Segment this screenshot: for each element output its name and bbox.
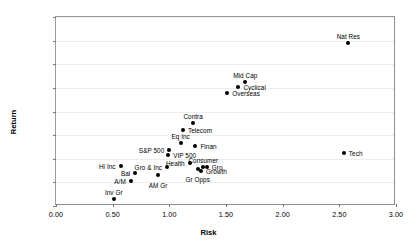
y-tick-mark xyxy=(53,159,56,160)
data-point xyxy=(193,144,197,148)
x-tick-label: 0.50 xyxy=(105,210,119,219)
data-point-label: Overseas xyxy=(232,90,260,97)
data-point-label: Eq Inc xyxy=(171,133,189,140)
data-point-label: Nat Res xyxy=(337,33,360,40)
data-point-label: Consumer xyxy=(188,157,218,164)
x-tick-mark xyxy=(226,204,227,207)
x-tick-label: 1.50 xyxy=(219,210,233,219)
data-point xyxy=(346,41,350,45)
plot-area: 0.005.0010.0015.0020.0025.0030.0035.0040… xyxy=(55,16,395,205)
gridline xyxy=(56,64,394,65)
data-point-label: Bal xyxy=(121,170,130,177)
scatter-chart: Return Risk 0.005.0010.0015.0020.0025.00… xyxy=(0,0,417,243)
x-tick-label: 0.00 xyxy=(49,210,63,219)
data-point xyxy=(199,169,203,173)
x-tick-mark xyxy=(56,204,57,207)
x-tick-mark xyxy=(113,204,114,207)
x-axis-title: Risk xyxy=(0,228,417,237)
gridline xyxy=(56,182,394,183)
gridline xyxy=(56,88,394,89)
y-tick-mark xyxy=(53,64,56,65)
data-point-label: AM Gr xyxy=(149,182,168,189)
x-tick-label: 2.50 xyxy=(332,210,346,219)
data-point xyxy=(165,165,169,169)
y-tick-mark xyxy=(53,17,56,18)
x-tick-mark xyxy=(283,204,284,207)
data-point-label: A/M xyxy=(114,177,126,184)
data-point xyxy=(166,153,170,157)
gridline xyxy=(56,41,394,42)
y-tick-mark xyxy=(53,112,56,113)
data-point xyxy=(119,164,123,168)
data-point xyxy=(179,141,183,145)
data-point-label: Tech xyxy=(349,149,363,156)
data-point-label: Gr Opps xyxy=(185,176,210,183)
y-tick-mark xyxy=(53,41,56,42)
y-tick-mark xyxy=(53,88,56,89)
data-point-label: Inv Gr xyxy=(105,189,123,196)
x-tick-label: 3.00 xyxy=(389,210,403,219)
gridline xyxy=(56,112,394,113)
x-tick-mark xyxy=(396,204,397,207)
y-axis-title: Return xyxy=(9,109,18,133)
y-tick-mark xyxy=(53,182,56,183)
data-point-label: Growth xyxy=(206,167,227,174)
gridline xyxy=(56,17,394,18)
y-tick-mark xyxy=(53,135,56,136)
data-point xyxy=(129,179,133,183)
x-tick-label: 1.00 xyxy=(162,210,176,219)
data-point xyxy=(112,197,116,201)
data-point xyxy=(342,151,346,155)
data-point xyxy=(133,171,137,175)
data-point-label: Hi Inc xyxy=(99,163,116,170)
gridline xyxy=(56,135,394,136)
x-tick-label: 2.00 xyxy=(275,210,289,219)
data-point xyxy=(225,91,229,95)
data-point-label: Contra xyxy=(183,113,202,120)
data-point-label: S&P 500 xyxy=(139,147,164,154)
data-point xyxy=(167,148,171,152)
data-point-label: Finan xyxy=(200,143,216,150)
data-point xyxy=(181,128,185,132)
data-point xyxy=(191,121,195,125)
data-point-label: Telecom xyxy=(188,127,212,134)
x-tick-mark xyxy=(339,204,340,207)
x-tick-mark xyxy=(169,204,170,207)
data-point-label: Gro & Inc xyxy=(135,164,162,171)
data-point xyxy=(156,173,160,177)
gridline xyxy=(56,159,394,160)
data-point-label: Mid Cap xyxy=(233,72,257,79)
